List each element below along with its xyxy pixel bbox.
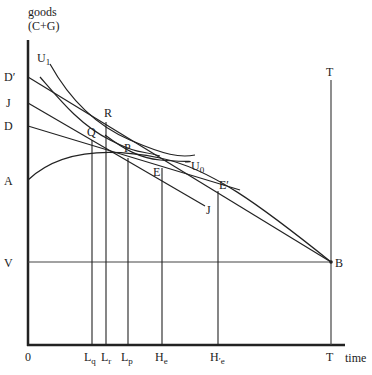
d-budget-line (28, 126, 240, 190)
label-j-end: J (206, 203, 211, 217)
label-t: T (326, 350, 334, 364)
label-u0: U0 (191, 159, 205, 175)
u0-curve (105, 135, 190, 162)
label-p: P (124, 141, 131, 155)
label-lp: Lp (121, 350, 133, 366)
y-axis-label-1: goods (28, 5, 57, 19)
label-e-prime: E′ (219, 178, 229, 192)
label-b: B (335, 256, 343, 270)
d-prime-budget-line (28, 77, 331, 262)
label-d-prime: D′ (4, 70, 16, 84)
steep-curve (40, 77, 160, 156)
label-lq: Lq (84, 350, 96, 366)
label-r: R (104, 106, 112, 120)
u1-indifference-curve (50, 64, 195, 156)
point-b (329, 260, 333, 264)
j-budget-line (28, 103, 205, 206)
economics-diagram: goods (C+G) time 0 D′ J D A V U1 U0 R Q … (0, 0, 372, 375)
label-he-prime: H′e (210, 350, 225, 366)
x-axis-label: time (345, 351, 366, 365)
label-q: Q (87, 125, 96, 139)
label-e: E (153, 165, 160, 179)
label-j: J (6, 96, 11, 110)
origin-label: 0 (25, 350, 31, 364)
label-he: He (155, 350, 168, 366)
label-d: D (4, 119, 13, 133)
label-a: A (4, 174, 13, 188)
y-axis-label-2: (C+G) (28, 19, 59, 33)
label-u1: U1 (37, 51, 50, 67)
label-t-top: T (326, 65, 334, 79)
label-v: V (4, 256, 13, 270)
label-lr: Lr (101, 350, 111, 366)
